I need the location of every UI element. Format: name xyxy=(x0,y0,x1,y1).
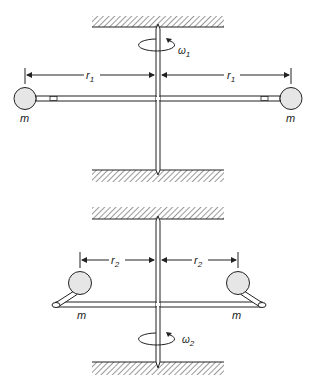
top-left-mass-label: m xyxy=(20,112,29,124)
bottom-left-pivot xyxy=(52,303,60,308)
bottom-left-mass-ball xyxy=(69,272,92,295)
bottom-right-mass-label: m xyxy=(232,309,241,321)
bottom-left-mass-label: m xyxy=(77,309,86,321)
top-left-mass-ball xyxy=(14,88,36,110)
diagram-canvas: ω1 r1 r1 m m xyxy=(0,0,314,381)
bottom-omega-label: ω2 xyxy=(182,334,195,348)
top-left-sleeve xyxy=(50,97,57,101)
top-assembly: ω1 r1 r1 m m xyxy=(14,16,302,182)
bottom-right-mass-ball xyxy=(227,272,250,295)
bottom-assembly: r2 r2 m m ω2 xyxy=(52,207,266,375)
bottom-radius-left-label: r2 xyxy=(111,254,120,269)
bottom-radius-right-label: r2 xyxy=(194,254,203,269)
bottom-right-pivot xyxy=(258,303,266,308)
top-radius-left-label: r1 xyxy=(86,69,94,84)
top-right-mass-ball xyxy=(280,88,302,110)
top-omega-label: ω1 xyxy=(178,45,190,59)
top-right-mass-label: m xyxy=(286,112,295,124)
top-right-sleeve xyxy=(261,97,268,101)
top-radius-right-label: r1 xyxy=(227,69,235,84)
